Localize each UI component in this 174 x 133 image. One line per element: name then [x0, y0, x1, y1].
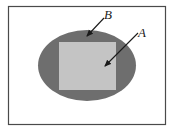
- inner-region-a: [59, 42, 116, 90]
- label-a: A: [137, 25, 146, 40]
- label-b: B: [104, 7, 112, 22]
- region-diagram: B A: [0, 0, 174, 133]
